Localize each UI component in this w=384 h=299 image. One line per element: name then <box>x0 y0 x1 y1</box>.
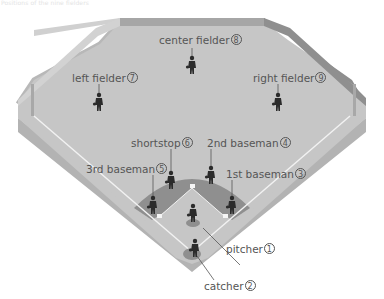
label-text: shortstop <box>131 137 181 149</box>
number-badge: 2 <box>245 280 256 291</box>
first-base <box>223 214 228 218</box>
label-first-baseman: 1st baseman3 <box>226 168 306 180</box>
label-second-baseman: 2nd baseman4 <box>207 137 291 149</box>
back-wall <box>120 18 264 26</box>
second-base <box>190 184 195 188</box>
label-text: left fielder <box>72 72 126 84</box>
label-text: 3rd baseman <box>86 163 155 175</box>
right-foul-pole <box>353 84 356 116</box>
number-badge: 8 <box>231 34 242 45</box>
label-left-fielder: left fielder7 <box>72 72 138 84</box>
label-center-fielder: center fielder8 <box>159 34 242 46</box>
left-foul-pole <box>31 84 34 116</box>
third-base <box>157 214 162 218</box>
label-catcher: catcher2 <box>204 280 256 292</box>
label-text: 2nd baseman <box>207 137 279 149</box>
number-badge: 1 <box>264 243 275 254</box>
number-badge: 6 <box>182 137 193 148</box>
label-text: pitcher <box>226 243 263 255</box>
label-pitcher: pitcher1 <box>226 243 275 255</box>
label-third-baseman: 3rd baseman5 <box>86 163 167 175</box>
number-badge: 3 <box>295 168 306 179</box>
pitchers-mound <box>186 219 200 227</box>
label-shortstop: shortstop6 <box>131 137 193 149</box>
number-badge: 5 <box>156 163 167 174</box>
number-badge: 9 <box>315 72 326 83</box>
label-text: 1st baseman <box>226 168 294 180</box>
label-text: catcher <box>204 280 244 292</box>
label-text: center fielder <box>159 34 230 46</box>
number-badge: 4 <box>280 137 291 148</box>
number-badge: 7 <box>127 72 138 83</box>
label-text: right fielder <box>253 72 314 84</box>
label-right-fielder: right fielder9 <box>253 72 326 84</box>
